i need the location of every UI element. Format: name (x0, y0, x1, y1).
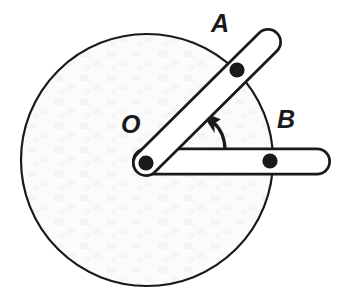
pin-A (229, 62, 244, 77)
pivot-pin-O (138, 155, 153, 170)
diagram-root: O A B (0, 0, 337, 303)
label-point-A: A (211, 11, 229, 36)
mechanism-figure (0, 0, 337, 303)
pin-B (262, 153, 277, 168)
label-pivot-O: O (121, 112, 140, 137)
label-point-B: B (277, 107, 295, 132)
